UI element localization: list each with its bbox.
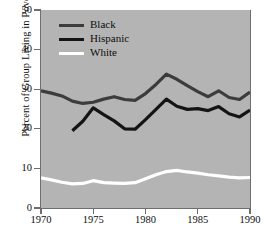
legend-swatch-black [59, 24, 84, 27]
y-axis-tick [34, 9, 41, 10]
y-axis-tick-label: 0 [2, 203, 32, 214]
x-axis-tick-label: 1985 [176, 215, 220, 226]
x-axis-tick-label: 1990 [228, 215, 263, 226]
series-line-hispanic [72, 99, 250, 131]
x-axis-tick-label: 1970 [19, 215, 63, 226]
y-axis-tick [34, 128, 41, 129]
legend-label: Hispanic [90, 32, 129, 44]
y-axis-tick-label: 50 [2, 5, 32, 16]
y-axis-tick-label: 40 [2, 44, 32, 55]
x-axis-tick-label: 1980 [124, 215, 168, 226]
y-axis-tick [34, 49, 41, 50]
y-axis-tick-label: 10 [2, 163, 32, 174]
y-axis-tick [34, 168, 41, 169]
legend-label: White [90, 46, 117, 58]
series-line-black [41, 74, 250, 103]
y-axis-tick-label: 20 [2, 123, 32, 134]
legend-swatch-hispanic [59, 38, 84, 41]
y-axis-tick-label: 30 [2, 84, 32, 95]
poverty-line-chart: Percent of Group Living in Poverty 01020… [0, 0, 263, 238]
legend-label: Black [90, 18, 116, 30]
x-axis-tick-label: 1975 [71, 215, 115, 226]
y-axis-tick [34, 89, 41, 90]
legend-swatch-white [59, 52, 84, 55]
series-line-white [41, 170, 250, 183]
